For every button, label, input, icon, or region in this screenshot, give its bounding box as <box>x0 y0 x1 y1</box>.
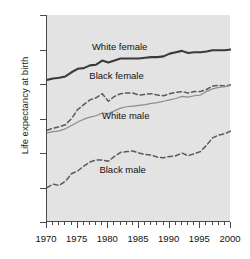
x-tick-minor <box>120 222 121 225</box>
x-tick-minor <box>64 222 65 225</box>
x-tick-minor <box>126 222 127 225</box>
x-tick-major <box>77 222 78 228</box>
x-tick-label: 2000 <box>210 233 250 244</box>
x-tick-major <box>230 222 231 228</box>
x-tick-minor <box>89 222 90 225</box>
x-tick-minor <box>212 222 213 225</box>
x-tick-major <box>199 222 200 228</box>
y-tick-mark <box>40 50 46 51</box>
y-tick-mark <box>40 15 46 16</box>
x-tick-minor <box>163 222 164 225</box>
x-tick-minor <box>156 222 157 225</box>
series-label-white-male: White male <box>102 110 150 121</box>
x-tick-minor <box>83 222 84 225</box>
x-tick-minor <box>193 222 194 225</box>
series-label-black-male: Black male <box>99 164 145 175</box>
y-tick-mark <box>40 119 46 120</box>
x-tick-minor <box>181 222 182 225</box>
x-tick-minor <box>144 222 145 225</box>
x-tick-minor <box>71 222 72 225</box>
series-label-white-female: White female <box>92 41 147 52</box>
x-tick-minor <box>187 222 188 225</box>
y-axis-title: Life expectancy at birth <box>19 26 30 186</box>
x-tick-major <box>169 222 170 228</box>
x-tick-minor <box>101 222 102 225</box>
x-tick-minor <box>132 222 133 225</box>
x-tick-minor <box>150 222 151 225</box>
x-tick-major <box>107 222 108 228</box>
x-tick-major <box>138 222 139 228</box>
series-line-black-male <box>47 131 231 188</box>
x-tick-minor <box>113 222 114 225</box>
x-tick-minor <box>52 222 53 225</box>
series-label-black-female: Black female <box>89 70 143 81</box>
life-expectancy-chart: Life expectancy at birth 55606570758085 … <box>0 0 250 259</box>
x-tick-minor <box>58 222 59 225</box>
x-tick-minor <box>95 222 96 225</box>
x-tick-minor <box>224 222 225 225</box>
y-tick-mark <box>40 84 46 85</box>
y-tick-mark <box>40 153 46 154</box>
x-tick-minor <box>175 222 176 225</box>
x-tick-minor <box>218 222 219 225</box>
x-tick-minor <box>205 222 206 225</box>
x-tick-major <box>46 222 47 228</box>
y-tick-mark <box>40 188 46 189</box>
